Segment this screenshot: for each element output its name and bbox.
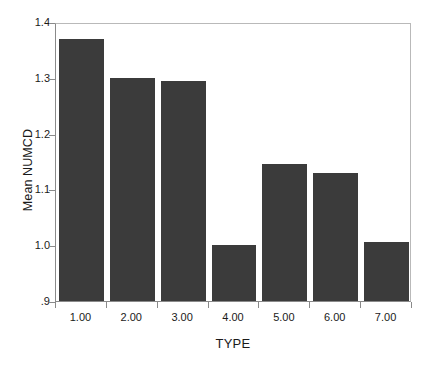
y-axis-tick-mark bbox=[49, 135, 55, 136]
y-axis-tick-mark bbox=[49, 79, 55, 80]
x-axis-tick-mark bbox=[411, 302, 412, 308]
bar bbox=[161, 81, 206, 301]
y-axis-tick-label: 1.1 bbox=[20, 184, 50, 195]
y-axis-tick-label: 1.4 bbox=[20, 17, 50, 28]
y-axis-tick-mark bbox=[49, 190, 55, 191]
bar bbox=[59, 39, 104, 301]
y-axis-tick-mark bbox=[49, 23, 55, 24]
y-axis-tick-label: 1.3 bbox=[20, 73, 50, 84]
bar bbox=[313, 173, 358, 301]
bars-layer bbox=[56, 24, 410, 301]
x-axis-tick-mark bbox=[258, 302, 259, 308]
x-axis-tick-mark bbox=[208, 302, 209, 308]
x-axis-tick-mark bbox=[55, 302, 56, 308]
x-axis-tick-mark bbox=[309, 302, 310, 308]
bar bbox=[212, 245, 257, 301]
x-axis-tick-mark bbox=[157, 302, 158, 308]
x-axis-title: TYPE bbox=[55, 336, 411, 351]
plot-area bbox=[55, 23, 411, 302]
y-axis-tick-labels: .91.01.11.21.31.4 bbox=[16, 0, 50, 367]
bar bbox=[262, 164, 307, 301]
y-axis-tick-label: .9 bbox=[20, 296, 50, 307]
y-axis-tick-mark bbox=[49, 246, 55, 247]
x-axis-tick-mark bbox=[360, 302, 361, 308]
bar bbox=[110, 78, 155, 301]
x-axis-tick-mark bbox=[106, 302, 107, 308]
x-axis-tick-label: 7.00 bbox=[356, 311, 416, 323]
bar-chart-figure: Mean NUMCD .91.01.11.21.31.4 TYPE 1.002.… bbox=[0, 0, 428, 367]
bar bbox=[364, 242, 409, 301]
y-axis-tick-label: 1.2 bbox=[20, 129, 50, 140]
y-axis-tick-label: 1.0 bbox=[20, 240, 50, 251]
